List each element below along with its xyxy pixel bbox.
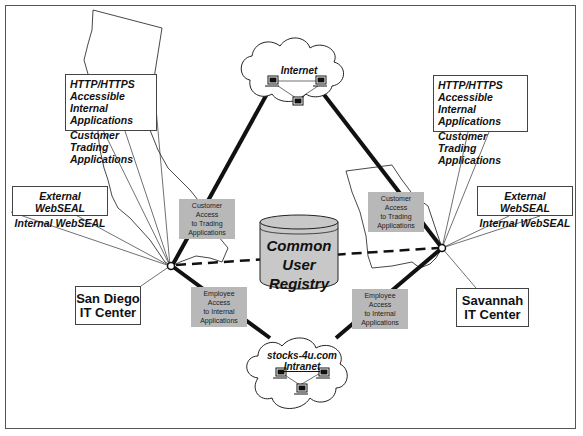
savannah-apps-callout: HTTP/HTTPS Accessible Internal Applicati…: [433, 75, 528, 132]
site-name-line1: Savannah: [457, 294, 528, 308]
label-line: Employee Access: [193, 289, 245, 307]
savannah-it-center: Savannah IT Center: [456, 288, 529, 327]
apps-line: Applications: [70, 114, 152, 126]
label-line: to Trading: [181, 219, 233, 228]
apps-line: Accessible Internal: [438, 91, 523, 115]
label-line: Applications: [181, 228, 233, 237]
apps-line: Applications: [70, 153, 152, 165]
sd-employee-access-label: Employee Access to Internal Applications: [191, 287, 247, 327]
registry-label-line1: Common: [262, 236, 336, 255]
site-name-line1: San Diego: [76, 292, 140, 306]
sv-employee-access-label: Employee Access to Internal Applications: [352, 289, 408, 329]
label-line: to Trading: [370, 212, 422, 221]
san-diego-apps-callout: HTTP/HTTPS Accessible Internal Applicati…: [65, 74, 157, 131]
sd-customer-access-label: Customer Access to Trading Applications: [179, 199, 235, 239]
apps-line: Applications: [438, 115, 523, 127]
registry-label: Common User Registry: [262, 236, 336, 293]
registry-label-line3: Registry: [262, 274, 336, 293]
san-diego-it-center: San Diego IT Center: [75, 286, 141, 325]
network-diagram: Internet stocks-4u.com Intranet Common U…: [0, 0, 583, 436]
apps-line: Customer Trading: [438, 130, 523, 154]
webseal-line: External WebSEAL: [13, 190, 107, 214]
san-diego-webseal-callout: External WebSEAL Internal WebSEAL: [12, 186, 108, 216]
label-line: to Internal: [193, 307, 245, 316]
registry-label-line2: User: [262, 255, 336, 274]
label-line: Customer Access: [370, 194, 422, 212]
label-line: to Internal: [354, 309, 406, 318]
label-line: Applications: [354, 318, 406, 327]
internet-label: Internet: [270, 65, 328, 76]
site-name-line2: IT Center: [457, 308, 528, 322]
label-line: Applications: [193, 316, 245, 325]
savannah-webseal-callout: External WebSEAL Internal WebSEAL: [477, 186, 573, 216]
label-line: Applications: [370, 221, 422, 230]
sv-customer-access-label: Customer Access to Trading Applications: [368, 192, 424, 232]
intranet-label-line1: stocks-4u.com: [262, 350, 342, 361]
apps-line: Applications: [438, 154, 523, 166]
apps-line: Accessible Internal: [70, 90, 152, 114]
webseal-line: External WebSEAL: [478, 190, 572, 214]
site-name-line2: IT Center: [76, 306, 140, 320]
intranet-label-line2: Intranet: [262, 361, 342, 372]
apps-line: HTTP/HTTPS: [438, 79, 523, 91]
savannah-node: [439, 245, 446, 252]
apps-line: HTTP/HTTPS: [70, 78, 152, 90]
san-diego-node: [168, 263, 175, 270]
apps-line: Customer Trading: [70, 129, 152, 153]
webseal-line: Internal WebSEAL: [13, 217, 107, 229]
intranet-label: stocks-4u.com Intranet: [262, 350, 342, 372]
intranet-cloud-icon: [247, 338, 348, 409]
label-line: Customer Access: [181, 201, 233, 219]
webseal-line: Internal WebSEAL: [478, 217, 572, 229]
label-line: Employee Access: [354, 291, 406, 309]
